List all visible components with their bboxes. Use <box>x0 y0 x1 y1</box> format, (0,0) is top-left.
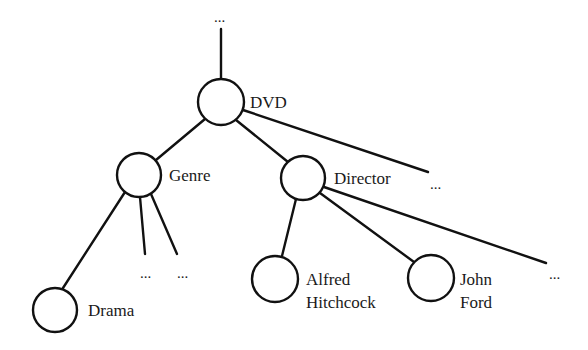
node-label-john: John <box>460 270 493 289</box>
tree-diagram-canvas: DVD Genre Director Drama Alfred Hitchcoc… <box>0 0 588 350</box>
edge-genre-to-more-1 <box>140 197 145 254</box>
edge-director-to-john <box>320 193 414 262</box>
node-director: Director <box>281 156 391 200</box>
node-circle-dvd <box>198 79 244 125</box>
edge-dvd-to-more <box>243 110 428 172</box>
node-john-ford: John Ford <box>408 255 493 312</box>
node-circle-alfred-hitchcock <box>252 256 298 302</box>
node-label-dvd: DVD <box>250 93 287 112</box>
ellipsis-genre-mid: ... <box>140 265 151 281</box>
ellipsis-genre-right: ... <box>177 265 188 281</box>
node-alfred-hitchcock: Alfred Hitchcock <box>252 256 376 312</box>
edge-genre-to-drama <box>63 192 125 288</box>
edge-dvd-to-director <box>236 120 288 162</box>
ellipsis-dvd-right: ... <box>430 176 441 192</box>
edge-director-to-alfred <box>282 199 296 256</box>
node-circle-john-ford <box>408 255 454 301</box>
node-label-alfred: Alfred <box>306 270 351 289</box>
ellipsis-director-right: ... <box>549 266 560 282</box>
node-label-genre: Genre <box>169 166 211 185</box>
node-label-director: Director <box>334 169 391 188</box>
node-label-ford: Ford <box>460 293 493 312</box>
ellipsis-top: ... <box>214 9 225 25</box>
edge-director-to-more <box>324 187 546 263</box>
edge-genre-to-more-2 <box>151 194 177 254</box>
node-genre: Genre <box>117 153 211 197</box>
node-label-drama: Drama <box>88 301 135 320</box>
node-circle-drama <box>33 288 77 332</box>
tree-diagram: DVD Genre Director Drama Alfred Hitchcoc… <box>0 0 588 350</box>
edge-dvd-to-genre <box>156 119 205 160</box>
node-circle-director <box>281 156 325 200</box>
node-drama: Drama <box>33 288 135 332</box>
node-circle-genre <box>117 153 161 197</box>
node-dvd: DVD <box>198 79 287 125</box>
node-label-hitchcock: Hitchcock <box>306 293 376 312</box>
